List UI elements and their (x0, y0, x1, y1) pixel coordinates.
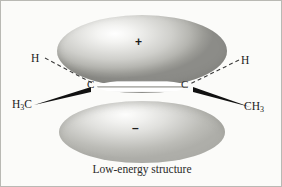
bond-wedge-methyl-left (34, 87, 91, 105)
atom-label-carbon-left: C (87, 79, 94, 90)
atom-label-methyl-left: H3C (12, 99, 32, 112)
figure-caption: Low-energy structure (1, 163, 282, 175)
atom-label-hydrogen-right: H (241, 55, 249, 67)
atom-label-hydrogen-left: H (31, 53, 39, 65)
phase-sign-positive: + (135, 36, 142, 48)
bond-wedge-methyl-right (193, 87, 250, 107)
methyl-right-pre: CH (244, 100, 260, 112)
methyl-right-subscript: 3 (260, 105, 264, 114)
phase-sign-negative: – (132, 122, 139, 134)
atom-label-methyl-right: CH3 (244, 101, 264, 114)
methyl-left-post: C (24, 98, 32, 110)
bond-layer (1, 1, 282, 187)
bond-dashed-h-right (190, 60, 239, 84)
atom-label-carbon-right: C (181, 79, 188, 90)
orbital-diagram-figure: C C H H H3C CH3 + – Low-energy structure (0, 0, 282, 187)
